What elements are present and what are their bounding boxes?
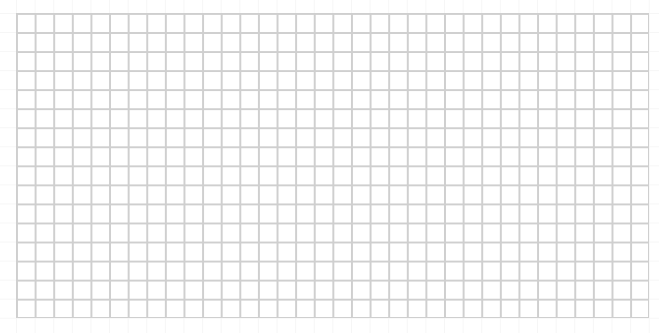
empty-grid	[16, 13, 649, 318]
